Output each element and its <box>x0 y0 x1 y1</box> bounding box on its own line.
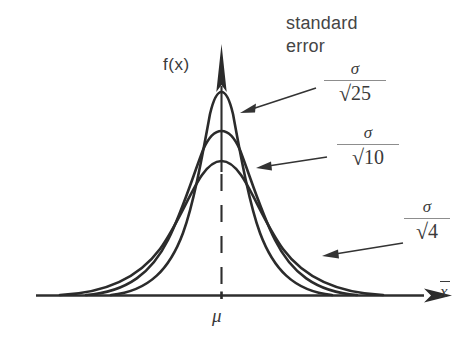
legend-entry-numerator: σ <box>337 124 399 143</box>
annotation-arrow-sqrt10 <box>256 157 327 171</box>
legend-entry-sqrt4: σ √4 <box>404 198 450 243</box>
annotation-arrow-sqrt4 <box>322 243 403 259</box>
y-axis-arrow-icon <box>216 44 226 92</box>
annotation-arrow-sqrt25 <box>240 88 316 113</box>
legend-entry-denominator: √10 <box>337 145 399 169</box>
legend-entry-sqrt25: σ √25 <box>324 60 386 105</box>
mu-axis-label: μ <box>212 306 222 325</box>
legend-entry-denominator: √25 <box>324 81 386 105</box>
legend-entry-sqrt10: σ √10 <box>337 124 399 169</box>
legend-heading: standard error <box>286 12 358 58</box>
radical-icon: √ <box>339 81 351 106</box>
plot-canvas <box>0 0 464 347</box>
x-axis-label: x <box>440 281 450 300</box>
legend-heading-line1: standard <box>286 13 358 33</box>
radical-icon: √ <box>352 145 364 170</box>
normal-curves-figure: standard error f(x) x μ σ √25 σ √10 σ √4 <box>0 0 464 347</box>
legend-entry-denominator-value: 4 <box>428 220 438 242</box>
radical-icon: √ <box>416 219 428 244</box>
legend-heading-line2: error <box>286 35 358 58</box>
legend-entry-denominator-value: 25 <box>351 82 371 104</box>
y-axis-label: f(x) <box>163 56 190 73</box>
legend-entry-denominator-value: 10 <box>364 146 384 168</box>
legend-entry-numerator: σ <box>324 60 386 79</box>
legend-entry-numerator: σ <box>404 198 450 217</box>
legend-entry-denominator: √4 <box>404 219 450 243</box>
x-axis-label-text: x <box>440 282 448 301</box>
